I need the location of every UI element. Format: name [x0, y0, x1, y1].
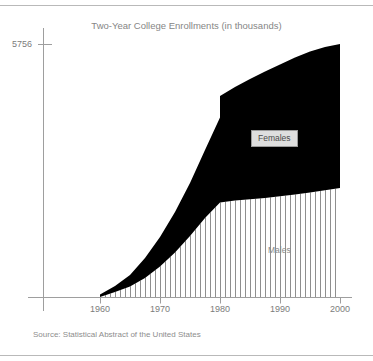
source-note: Source: Statistical Abstract of the Unit…: [33, 330, 201, 339]
x-axis-label-1980: 1980: [200, 304, 240, 314]
x-axis-label-2000: 2000: [320, 304, 360, 314]
series-label-females: Females: [251, 130, 298, 147]
y-axis-tick-label: 5756: [12, 39, 32, 49]
series-label-males: Males: [262, 243, 297, 258]
area-chart-plot: [0, 0, 373, 361]
chart-figure: Two-Year College Enrollments (in thousan…: [0, 0, 373, 361]
x-axis-label-1970: 1970: [140, 304, 180, 314]
x-axis-label-1990: 1990: [260, 304, 300, 314]
x-axis-label-1960: 1960: [80, 304, 120, 314]
